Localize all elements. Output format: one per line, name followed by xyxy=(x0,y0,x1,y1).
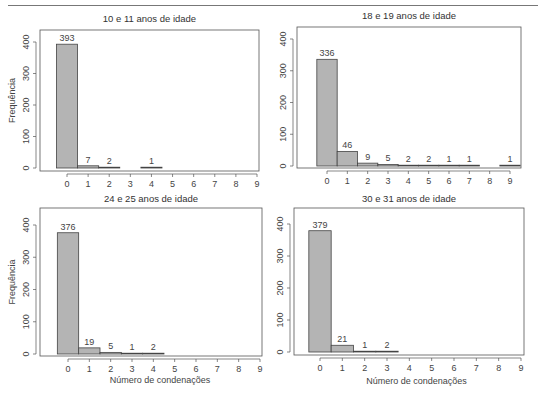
x-tick-label: 4 xyxy=(406,176,411,186)
y-tick-label: 300 xyxy=(21,66,31,81)
x-tick-label: 2 xyxy=(365,176,370,186)
bar-value-label: 46 xyxy=(342,140,352,150)
y-tick-label: 400 xyxy=(21,34,31,49)
x-tick-label: 7 xyxy=(215,364,220,374)
bar-value-label: 19 xyxy=(84,337,94,347)
panel-title: 10 e 11 anos de idade xyxy=(103,13,196,24)
x-tick-label: 1 xyxy=(340,363,345,373)
bar-value-label: 1 xyxy=(149,156,154,166)
x-tick-label: 7 xyxy=(467,176,472,186)
bar-1 xyxy=(79,348,100,354)
bar-value-label: 1 xyxy=(129,342,134,352)
bar-4 xyxy=(141,167,162,168)
bar-value-label: 1 xyxy=(362,340,367,350)
x-tick-label: 9 xyxy=(254,179,259,189)
x-tick-label: 2 xyxy=(108,364,113,374)
bar-3 xyxy=(376,351,398,352)
y-tick-label: 0 xyxy=(275,349,285,354)
histogram-panel-2: 18 e 19 anos de idade3364695221110100200… xyxy=(278,10,521,186)
bar-0 xyxy=(57,233,78,354)
histogram-panel-3: 24 e 25 anos de idade3761951201002003004… xyxy=(7,193,263,385)
x-tick-label: 6 xyxy=(193,364,198,374)
bar-value-label: 5 xyxy=(385,153,390,163)
bar-value-label: 1 xyxy=(467,154,472,164)
x-tick-label: 5 xyxy=(170,179,175,189)
x-axis-label: Número de condenações xyxy=(110,375,211,385)
bar-3 xyxy=(121,353,142,354)
bar-value-label: 1 xyxy=(507,154,512,164)
x-tick-label: 8 xyxy=(496,363,501,373)
y-tick-label: 400 xyxy=(275,216,285,231)
y-axis-label: Frequência xyxy=(7,259,17,304)
bar-value-label: 2 xyxy=(406,154,411,164)
x-tick-label: 6 xyxy=(446,176,451,186)
y-tick-label: 100 xyxy=(21,129,31,144)
x-tick-label: 0 xyxy=(317,363,322,373)
x-tick-label: 4 xyxy=(151,364,156,374)
x-tick-label: 3 xyxy=(129,364,134,374)
bar-0 xyxy=(309,231,331,352)
x-tick-label: 8 xyxy=(236,364,241,374)
bar-7 xyxy=(459,165,479,166)
y-axis-label: Frequência xyxy=(7,78,17,123)
x-tick-label: 6 xyxy=(451,363,456,373)
x-tick-label: 0 xyxy=(324,176,329,186)
y-tick-label: 300 xyxy=(21,250,31,265)
bar-value-label: 379 xyxy=(312,220,327,230)
bar-value-label: 2 xyxy=(151,342,156,352)
bar-0 xyxy=(317,59,337,166)
bar-2 xyxy=(358,163,378,166)
x-tick-label: 9 xyxy=(257,364,262,374)
x-tick-label: 7 xyxy=(474,363,479,373)
x-tick-label: 0 xyxy=(65,364,70,374)
x-tick-label: 8 xyxy=(487,176,492,186)
y-tick-label: 200 xyxy=(275,280,285,295)
y-tick-label: 200 xyxy=(278,95,288,110)
bar-1 xyxy=(337,151,357,166)
histogram-panel-4: 30 e 31 anos de idade3792112010020030040… xyxy=(275,193,524,386)
x-tick-label: 3 xyxy=(384,363,389,373)
x-tick-label: 3 xyxy=(385,176,390,186)
bar-value-label: 21 xyxy=(337,334,347,344)
bar-value-label: 5 xyxy=(108,341,113,351)
x-tick-label: 3 xyxy=(128,179,133,189)
bar-1 xyxy=(331,345,353,352)
x-tick-label: 6 xyxy=(191,179,196,189)
x-tick-label: 2 xyxy=(362,363,367,373)
x-tick-label: 9 xyxy=(507,176,512,186)
x-tick-label: 8 xyxy=(233,179,238,189)
y-tick-label: 0 xyxy=(21,165,31,170)
x-tick-label: 1 xyxy=(86,179,91,189)
histogram-panel-1: 10 e 11 anos de idade3937210100200300400… xyxy=(7,13,260,189)
bar-2 xyxy=(354,351,376,352)
bar-1 xyxy=(78,166,99,168)
bar-4 xyxy=(398,165,418,166)
x-tick-label: 4 xyxy=(149,179,154,189)
bar-value-label: 336 xyxy=(319,48,334,58)
bar-value-label: 2 xyxy=(107,156,112,166)
bar-value-label: 2 xyxy=(384,340,389,350)
x-tick-label: 9 xyxy=(518,363,523,373)
y-tick-label: 200 xyxy=(21,282,31,297)
bar-6 xyxy=(439,165,459,166)
y-tick-label: 100 xyxy=(275,312,285,327)
x-tick-label: 4 xyxy=(407,363,412,373)
bar-value-label: 393 xyxy=(59,33,74,43)
bar-value-label: 7 xyxy=(86,155,91,165)
x-axis-label: Número de condenações xyxy=(366,376,467,386)
x-tick-label: 1 xyxy=(87,364,92,374)
x-tick-label: 5 xyxy=(172,364,177,374)
bar-4 xyxy=(143,353,164,354)
y-tick-label: 100 xyxy=(278,127,288,142)
x-tick-label: 1 xyxy=(345,176,350,186)
y-tick-label: 400 xyxy=(21,217,31,232)
panel-title: 18 e 19 anos de idade xyxy=(362,10,456,21)
bar-5 xyxy=(419,165,439,166)
x-tick-label: 5 xyxy=(429,363,434,373)
x-tick-label: 0 xyxy=(64,179,69,189)
x-tick-label: 7 xyxy=(212,179,217,189)
panel-title: 30 e 31 anos de idade xyxy=(362,193,456,204)
x-tick-label: 2 xyxy=(107,179,112,189)
x-tick-label: 5 xyxy=(426,176,431,186)
bar-0 xyxy=(56,44,77,168)
